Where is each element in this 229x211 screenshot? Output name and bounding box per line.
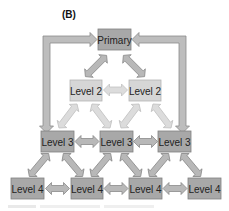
node-level2-right-label: Level 2 bbox=[129, 86, 162, 97]
arrow-primary-level2-right bbox=[119, 51, 149, 81]
arrow-level2r-level3r bbox=[148, 100, 176, 131]
node-level4-3: Level 4 bbox=[129, 178, 162, 199]
node-level3-right: Level 3 bbox=[158, 131, 191, 152]
node-level2-left-label: Level 2 bbox=[70, 86, 103, 97]
arrow-level2l-level3m bbox=[87, 100, 115, 131]
arrow-level4a-level4b bbox=[46, 183, 70, 195]
node-level4-2-label: Level 4 bbox=[71, 184, 104, 195]
diagram-svg: (B) bbox=[0, 0, 229, 211]
arrow-level2l-level3l bbox=[54, 100, 82, 131]
panel-label: (B) bbox=[62, 9, 76, 20]
node-level4-3-label: Level 4 bbox=[129, 184, 162, 195]
arrow-level4c-level4d bbox=[163, 183, 187, 195]
arrow-level3m-level4c bbox=[117, 150, 145, 181]
arrow-level3m-level3r bbox=[134, 136, 158, 148]
arrow-level3l-level4a bbox=[25, 150, 53, 181]
arrow-primary-level2-left bbox=[81, 51, 111, 81]
node-level3-left-label: Level 3 bbox=[41, 137, 74, 148]
node-level2-left: Level 2 bbox=[70, 80, 103, 101]
caption-remnant bbox=[8, 205, 154, 208]
arrow-level2-level2 bbox=[104, 84, 128, 96]
node-level3-left: Level 3 bbox=[41, 131, 74, 152]
node-level4-1-label: Level 4 bbox=[11, 184, 44, 195]
node-level2-right: Level 2 bbox=[129, 80, 162, 101]
arrow-level3r-level4c bbox=[145, 150, 173, 181]
hierarchy-diagram: (B) bbox=[0, 0, 229, 211]
node-level4-2: Level 4 bbox=[71, 178, 104, 199]
node-level4-1: Level 4 bbox=[11, 178, 44, 199]
arrow-level4b-level4c bbox=[104, 183, 128, 195]
node-level3-middle: Level 3 bbox=[100, 131, 133, 152]
arrow-level3l-level4b bbox=[59, 150, 87, 181]
node-level4-4-label: Level 4 bbox=[188, 184, 221, 195]
node-level4-4: Level 4 bbox=[188, 178, 221, 199]
node-primary-label: Primary bbox=[97, 35, 131, 46]
arrow-level3l-level3m bbox=[75, 136, 99, 148]
arrow-level3r-level4d bbox=[177, 150, 205, 181]
node-level3-right-label: Level 3 bbox=[158, 137, 191, 148]
node-level3-middle-label: Level 3 bbox=[100, 137, 133, 148]
arrow-level2r-level3m bbox=[116, 100, 144, 131]
arrow-level3m-level4b bbox=[87, 150, 115, 181]
node-primary: Primary bbox=[97, 29, 131, 50]
